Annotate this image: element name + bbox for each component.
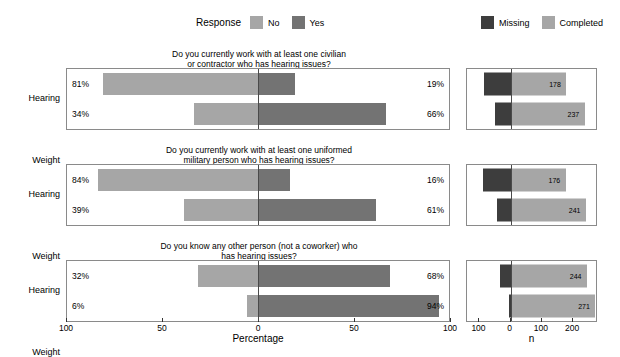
- percentage-label-yes: 16%: [427, 175, 444, 185]
- count-value-label: 244: [570, 273, 582, 280]
- percentage-label-no: 84%: [72, 175, 89, 185]
- zero-reference-line: [258, 165, 259, 225]
- y-axis-category-label: Hearing: [0, 93, 60, 103]
- counts-x-axis-tick-label: 100: [471, 323, 485, 333]
- bar-segment-missing[interactable]: [495, 103, 510, 126]
- percentage-chart: Do you currently work with at least one …: [0, 44, 452, 334]
- counts-bar-row: 237: [467, 99, 596, 129]
- legend-item-no[interactable]: No: [250, 16, 280, 29]
- bar-segment-no[interactable]: [184, 199, 259, 221]
- legend-label-completed: Completed: [560, 18, 604, 28]
- percentage-label-yes: 61%: [427, 205, 444, 215]
- legend-item-missing[interactable]: Missing: [481, 16, 530, 29]
- percentage-label-yes: 68%: [427, 271, 444, 281]
- x-axis-tick-label: 100: [59, 323, 73, 333]
- count-value-label: 237: [568, 111, 580, 118]
- x-axis-tick-label: 100: [443, 323, 457, 333]
- zero-reference-line: [258, 261, 259, 321]
- counts-x-axis-tick: [572, 318, 573, 322]
- percentage-x-axis: Percentage 10050050100: [66, 318, 450, 354]
- facet-panel: Do you currently work with at least one …: [0, 44, 452, 140]
- counts-bar-row: 176: [467, 165, 596, 195]
- facet-panel: Do you currently work with at least one …: [0, 140, 452, 236]
- counts-facet-panel: 178237: [466, 44, 620, 140]
- x-axis-tick: [66, 318, 67, 322]
- legend-item-completed[interactable]: Completed: [542, 16, 604, 29]
- x-axis-tick: [162, 318, 163, 322]
- legend-swatch-no: [250, 16, 263, 29]
- count-value-label: 178: [549, 81, 561, 88]
- counts-x-axis-tick-label: 200: [565, 323, 579, 333]
- counts-bar-row: 271: [467, 291, 596, 321]
- facet-title-line1: Do you know any other person (not a cowo…: [66, 241, 452, 251]
- count-value-label: 271: [578, 303, 590, 310]
- count-value-label: 176: [549, 177, 561, 184]
- bar-segment-no[interactable]: [103, 73, 259, 95]
- bar-segment-yes[interactable]: [259, 199, 376, 221]
- bar-segment-missing[interactable]: [483, 169, 510, 192]
- counts-zero-reference-line: [511, 165, 512, 225]
- bar-segment-yes[interactable]: [259, 295, 439, 317]
- x-axis-tick: [450, 318, 451, 322]
- legend-swatch-missing: [481, 16, 494, 29]
- response-legend-title: Response: [196, 17, 241, 28]
- percentage-label-no: 39%: [72, 205, 89, 215]
- percentage-label-yes: 94%: [427, 301, 444, 311]
- bar-segment-yes[interactable]: [259, 103, 386, 125]
- counts-x-axis-tick: [541, 318, 542, 322]
- legend-swatch-completed: [542, 16, 555, 29]
- completion-legend: Missing Completed: [481, 16, 615, 29]
- facet-plot-area: 32%68%6%94%: [66, 260, 450, 322]
- counts-x-axis: n 1000100200: [466, 318, 597, 354]
- counts-chart: 178237176241244271: [466, 44, 620, 334]
- counts-plot-area: 244271: [466, 260, 597, 322]
- x-axis-tick-label: 0: [256, 323, 261, 333]
- facet-plot-area: 81%19%34%66%: [66, 68, 450, 130]
- facet-plot-area: 84%16%39%61%: [66, 164, 450, 226]
- counts-plot-area: 176241: [466, 164, 597, 226]
- bar-segment-no[interactable]: [98, 169, 259, 191]
- legend-label-no: No: [268, 18, 280, 28]
- legend-item-yes[interactable]: Yes: [292, 16, 325, 29]
- counts-x-axis-tick-label: 100: [534, 323, 548, 333]
- percentage-label-no: 81%: [72, 79, 89, 89]
- percentage-label-yes: 66%: [427, 109, 444, 119]
- bar-segment-yes[interactable]: [259, 169, 290, 191]
- x-axis-tick: [354, 318, 355, 322]
- percentage-label-no: 6%: [72, 301, 84, 311]
- counts-bar-row: 241: [467, 195, 596, 225]
- legend-label-missing: Missing: [499, 18, 530, 28]
- legend-swatch-yes: [292, 16, 305, 29]
- counts-bar-row: 244: [467, 261, 596, 291]
- counts-facet-panel: 176241: [466, 140, 620, 236]
- legend-label-yes: Yes: [310, 18, 325, 28]
- facet-title-line1: Do you currently work with at least one …: [66, 49, 452, 59]
- response-legend: Response No Yes: [196, 16, 336, 29]
- bar-segment-no[interactable]: [194, 103, 259, 125]
- bar-segment-missing[interactable]: [500, 265, 511, 288]
- percentage-label-yes: 19%: [427, 79, 444, 89]
- counts-bar-row: 178: [467, 69, 596, 99]
- counts-x-axis-tick-label: 0: [507, 323, 512, 333]
- percentage-label-no: 32%: [72, 271, 89, 281]
- y-axis-category-label: Hearing: [0, 189, 60, 199]
- x-axis-tick-label: 50: [349, 323, 358, 333]
- counts-zero-reference-line: [511, 261, 512, 321]
- x-axis-tick-label: 50: [157, 323, 166, 333]
- percentage-axis-title: Percentage: [66, 333, 450, 344]
- y-axis-category-label: Hearing: [0, 285, 60, 295]
- counts-x-axis-tick: [478, 318, 479, 322]
- counts-plot-area: 178237: [466, 68, 597, 130]
- counts-zero-reference-line: [511, 69, 512, 129]
- facet-title-line1: Do you currently work with at least one …: [66, 145, 452, 155]
- bar-segment-yes[interactable]: [259, 265, 390, 287]
- percentage-label-no: 34%: [72, 109, 89, 119]
- y-axis-category-label: Weight: [0, 347, 60, 357]
- counts-axis-title: n: [466, 333, 597, 344]
- zero-reference-line: [258, 69, 259, 129]
- bar-segment-yes[interactable]: [259, 73, 295, 95]
- bar-segment-no[interactable]: [198, 265, 259, 287]
- bar-segment-missing[interactable]: [497, 199, 511, 222]
- bar-segment-missing[interactable]: [484, 73, 511, 96]
- count-value-label: 241: [569, 207, 581, 214]
